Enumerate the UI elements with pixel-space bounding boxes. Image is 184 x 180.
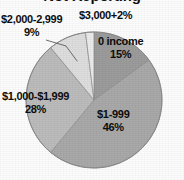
slice-label-3000-plus-percent: 2% <box>117 9 132 21</box>
slice-label-1-999-percent: 46% <box>97 121 129 134</box>
slice-label-1000-1999-percent: 28% <box>2 103 69 116</box>
chart-title: Not Reporting <box>0 0 184 4</box>
slice-label-2000-2999-text: $2,000-2,999 <box>1 13 62 25</box>
slice-label-1-999: $1-999 46% <box>97 108 129 133</box>
slice-label-0-income-percent: 15% <box>98 48 143 61</box>
chart-title-clipped-region: Not Reporting <box>0 0 184 7</box>
slice-label-1000-1999: $1,000-$1,999 28% <box>2 90 69 115</box>
pie-chart-figure: Not Reporting 0 income 15% $1-999 46% $1… <box>0 0 184 180</box>
slice-label-2000-2999-percent: 9% <box>1 26 62 39</box>
slice-label-1-999-text: $1-999 <box>97 108 129 120</box>
slice-label-3000-plus-text: $3,000+ <box>79 9 117 21</box>
slice-label-1000-1999-text: $1,000-$1,999 <box>2 90 69 102</box>
slice-label-2000-2999: $2,000-2,999 9% <box>1 13 62 38</box>
slice-label-0-income: 0 income 15% <box>98 35 143 60</box>
slice-label-3000-plus: $3,000+2% <box>79 9 132 22</box>
slice-label-0-income-text: 0 income <box>98 35 143 47</box>
